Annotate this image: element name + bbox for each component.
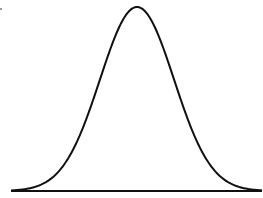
- corner-mark: [0, 8, 2, 10]
- bell-curve-figure: [0, 0, 263, 198]
- bell-curve-svg: [0, 0, 263, 198]
- normal-distribution-curve: [11, 7, 262, 190]
